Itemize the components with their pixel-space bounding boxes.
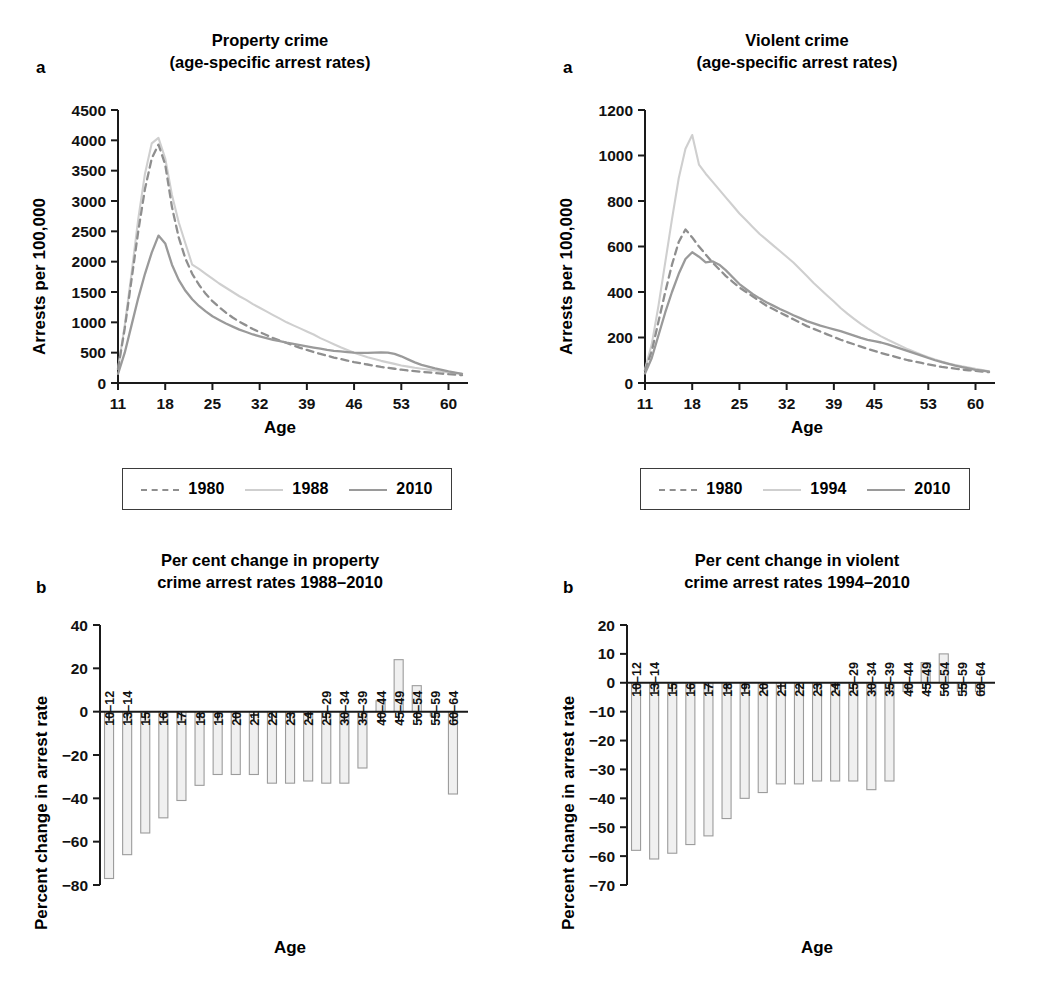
y-tick-label: 1000 [599,147,633,164]
y-tick-label: 500 [80,344,106,361]
legend-label: 1980 [188,480,224,498]
y-tick-label: 3500 [72,162,106,179]
y-tick-label: −20 [62,747,88,764]
bar-category-label: 17 [175,712,189,726]
bar-category-label: 40–44 [375,691,389,726]
x-tick-label: 11 [110,395,127,412]
bar-category-label: 24 [302,712,316,726]
bar-category-label: 22 [266,712,280,726]
bar-category-label: 21 [248,712,262,726]
legend-entry-1980: 1980 [141,480,224,498]
bar-13–14 [123,712,132,855]
bar-10–12 [105,712,114,879]
bar-category-label: 16 [684,683,698,697]
bar-15 [668,683,677,853]
panel-violent-percent-change: b Per cent change in violent crime arres… [527,540,1054,991]
y-tick-label: −20 [589,732,615,749]
bar-category-label: 18 [721,683,735,697]
y-tick-label: 40 [71,617,88,634]
bar-category-label: 13–14 [648,662,662,697]
y-tick-label: −70 [589,877,615,894]
bar-22 [794,683,803,784]
bar-category-label: 13–14 [121,691,135,726]
y-tick-label: 3000 [72,193,106,210]
panel-violent-crime-rates: a Violent crime (age-specific arrest rat… [527,0,1054,455]
y-tick-label: 0 [97,375,106,392]
bar-category-label: 55–59 [429,691,443,726]
bar-category-label: 35–39 [356,691,370,726]
bar-category-label: 15 [666,683,680,697]
line-series-1980 [645,229,989,372]
property-legend: 198019882010 [122,468,452,510]
legend-label: 1994 [810,480,846,498]
legend-entry-2010: 2010 [349,480,432,498]
y-tick-label: 10 [598,645,615,662]
figure-root: a Property crime (age-specific arrest ra… [0,0,1054,991]
y-tick-label: −80 [62,877,88,894]
x-tick-label: 39 [298,395,316,412]
y-tick-label: 600 [607,238,633,255]
legend-entry-1980: 1980 [659,480,742,498]
x-tick-label: 46 [345,395,363,412]
bar-category-label: 15 [139,712,153,726]
x-tick-label: 18 [157,395,175,412]
legend-label: 2010 [396,480,432,498]
bar-category-label: 25–29 [320,691,334,726]
y-tick-label: 1000 [72,314,106,331]
x-tick-label: 32 [778,395,795,412]
bar-16 [159,712,168,818]
bar-category-label: 10–12 [630,662,644,697]
x-tick-label: 18 [684,395,702,412]
bar-13–14 [650,683,659,859]
x-tick-label: 53 [920,395,938,412]
bar-category-label: 50–54 [938,662,952,697]
bar-17 [704,683,713,836]
y-tick-label: −40 [62,790,88,807]
bar-18 [722,683,731,819]
bar-category-label: 35–39 [883,662,897,697]
y-tick-label: 1500 [72,284,106,301]
legend-entry-1994: 1994 [763,480,846,498]
legend-entry-2010: 2010 [867,480,950,498]
bar-category-label: 23 [811,683,825,697]
bar-category-label: 45–49 [393,691,407,726]
y-tick-label: 2500 [72,223,106,240]
bar-category-label: 60–64 [974,662,988,697]
violent-legend: 198019942010 [640,468,970,510]
bar-category-label: 45–49 [920,662,934,697]
y-tick-label: −50 [589,819,615,836]
y-tick-label: 0 [624,375,633,392]
bar-category-label: 18 [194,712,208,726]
bar-category-label: 20 [230,712,244,726]
y-tick-label: 20 [598,617,615,634]
bar-category-label: 30–34 [865,662,879,697]
bar-category-label: 16 [157,712,171,726]
bar-category-label: 50–54 [411,691,425,726]
legend-label: 1980 [706,480,742,498]
legend-label: 1988 [292,480,328,498]
line-series-2010 [645,252,989,373]
y-tick-label: −60 [62,833,88,850]
bar-category-label: 20 [757,683,771,697]
bar-19 [740,683,749,799]
x-tick-label: 45 [866,395,884,412]
legend-entry-1988: 1988 [245,480,328,498]
y-tick-label: −10 [589,703,615,720]
legend-label: 2010 [914,480,950,498]
x-tick-label: 32 [251,395,268,412]
bar-category-label: 19 [212,712,226,726]
line-series-2010 [118,236,462,374]
x-tick-label: 25 [204,395,222,412]
bar-category-label: 21 [775,683,789,697]
y-tick-label: −30 [589,761,615,778]
y-tick-label: 0 [79,703,88,720]
y-tick-label: 2000 [72,253,106,270]
bar-category-label: 55–59 [956,662,970,697]
y-tick-label: 400 [607,284,633,301]
y-tick-label: 200 [607,329,633,346]
y-tick-label: 20 [71,660,88,677]
bar-category-label: 24 [829,683,843,697]
x-tick-label: 60 [967,395,984,412]
bar-category-label: 40–44 [902,662,916,697]
bar-category-label: 23 [284,712,298,726]
